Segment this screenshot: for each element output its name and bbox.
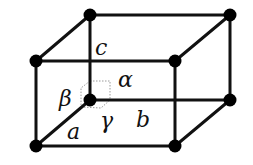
lattice-point-a [30,140,43,153]
edge-bottom-right [175,100,230,146]
lattice-point-abc [169,55,182,68]
lattice-point-bc [224,9,237,22]
label-alpha: α [118,67,133,92]
lattice-point-b [224,94,237,107]
unit-cell-diagram: c α β γ a b [0,0,253,165]
axis-labels: c α β γ a b [58,35,150,144]
label-a: a [67,119,80,144]
label-b: b [136,107,150,132]
lattice-point-c [84,9,97,22]
label-c: c [95,35,107,60]
lattice-point-origin [84,94,97,107]
lattice-point-ac [30,55,43,68]
unit-cell-svg: c α β γ a b [0,0,253,165]
edge-top-left [36,15,90,61]
edge-top-right [175,15,230,61]
label-gamma: γ [100,108,114,133]
lattice-point-ab [169,140,182,153]
lattice-points [30,9,237,153]
label-beta: β [58,86,72,111]
cell-edges [36,15,230,146]
